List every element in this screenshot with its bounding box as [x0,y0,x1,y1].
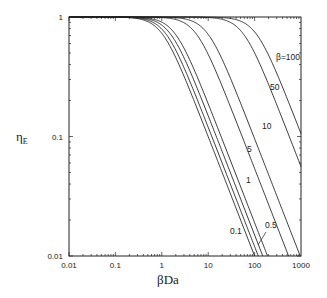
curve---0.5 [69,17,263,256]
y-tick-label: 0.1 [52,133,64,142]
x-tick-label: 1 [160,261,165,270]
curve-label: β=100 [276,52,300,62]
curve-label: 10 [262,121,272,131]
curve-label: 50 [270,82,280,92]
curve---0.1 [69,17,255,256]
curve---50 [69,17,301,167]
curve---0.3 [69,17,258,256]
curve-label: 0.1 [230,226,242,236]
x-tick-label: 100 [248,261,262,270]
curve-label: 1 [246,175,251,185]
x-axis-title: βDa [157,272,179,287]
y-tick-label: 0.01 [47,252,63,261]
x-tick-label: 0.01 [61,261,77,270]
curve-label: 5 [247,144,252,154]
y-axis-title-sub: E [23,137,28,146]
x-tick-label: 10 [204,261,213,270]
curve---5 [69,17,289,256]
x-tick-label: 0.1 [110,261,122,270]
curve-labels: β=1005010510.10.5 [230,52,300,236]
y-tick-label: 1 [59,13,64,22]
efficiency-factor-chart: 0.010.111010010000.010.11 β=1005010510.1… [0,0,327,298]
x-tick-label: 1000 [292,261,310,270]
tick-labels: 0.010.111010010000.010.11 [47,13,310,270]
curve-label: 0.5 [265,220,277,230]
curve---100 [69,17,301,134]
y-axis-title: ηE [16,129,28,146]
curve---1 [69,17,268,256]
